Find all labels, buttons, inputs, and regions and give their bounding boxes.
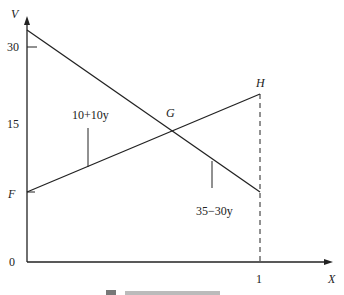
tick-label-15: 15 bbox=[7, 117, 19, 131]
label-35-30y-text: 35−30y bbox=[196, 204, 233, 218]
tick-label-1: 1 bbox=[256, 272, 262, 286]
point-label-h: H bbox=[255, 76, 266, 90]
point-label-f: F bbox=[7, 187, 16, 201]
x-axis-arrow-icon bbox=[324, 259, 333, 265]
tick-label-0: 0 bbox=[9, 255, 15, 269]
caption-fragment bbox=[125, 291, 220, 295]
y-axis-label: V bbox=[11, 7, 20, 21]
x-axis-label: X bbox=[327, 272, 336, 286]
label-10-10y-text: 10+10y bbox=[72, 108, 109, 122]
label-35-30y: 35−30y bbox=[196, 204, 233, 218]
line-35-30y bbox=[27, 30, 260, 192]
line-10-10y bbox=[27, 94, 260, 192]
diagram-canvas: V X 30 15 0 1 F G H 10+10y 35−30y bbox=[0, 0, 344, 295]
label-10-10y: 10+10y bbox=[72, 108, 109, 122]
point-label-g: G bbox=[166, 106, 175, 120]
y-axis-arrow-icon bbox=[24, 16, 30, 25]
tick-label-30: 30 bbox=[7, 40, 19, 54]
caption-fragment bbox=[106, 290, 116, 295]
